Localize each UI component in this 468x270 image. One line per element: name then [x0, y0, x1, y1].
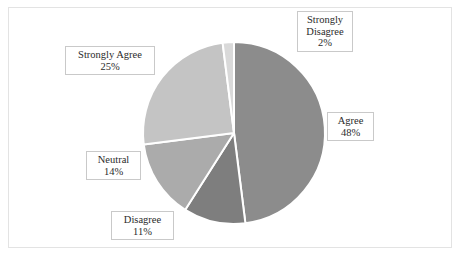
- pie-svg: [0, 0, 468, 270]
- slice-label-agree: Agree 48%: [327, 112, 374, 141]
- slice-label-strongly-disagree-value: 2%: [302, 37, 348, 49]
- slice-label-strongly-agree-name: Strongly Agree: [70, 49, 150, 61]
- slice-label-neutral-name: Neutral: [91, 154, 136, 166]
- slice-label-disagree-value: 11%: [116, 226, 169, 238]
- slice-label-strongly-disagree-line1: Strongly: [302, 14, 348, 26]
- slice-label-disagree-name: Disagree: [116, 214, 169, 226]
- slice-label-strongly-disagree: Strongly Disagree 2%: [297, 11, 353, 52]
- slice-label-agree-name: Agree: [332, 115, 369, 127]
- pie-slice-agree: [234, 42, 325, 223]
- slice-label-neutral-value: 14%: [91, 166, 136, 178]
- slice-label-agree-value: 48%: [332, 127, 369, 139]
- pie-slice-strongly-agree: [143, 43, 234, 145]
- slice-label-strongly-disagree-line2: Disagree: [302, 26, 348, 38]
- slice-label-disagree: Disagree 11%: [111, 211, 174, 240]
- slice-label-strongly-agree: Strongly Agree 25%: [65, 46, 155, 75]
- slice-label-strongly-agree-value: 25%: [70, 61, 150, 73]
- pie-chart-figure: Strongly Disagree 2% Agree 48% Strongly …: [0, 0, 468, 270]
- slice-label-neutral: Neutral 14%: [86, 151, 141, 180]
- pie-slice-group: [143, 42, 325, 224]
